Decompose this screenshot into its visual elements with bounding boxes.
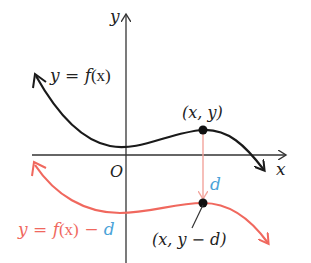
shifted-point-leader (192, 205, 203, 228)
original-point-label: (x, y) (182, 103, 223, 122)
original-curve (36, 76, 264, 170)
shifted-curve-label: y = f(x) − d (17, 219, 115, 239)
shifted-point-label: (x, y − d) (152, 230, 227, 249)
origin-label: O (110, 162, 123, 181)
vertical-shift-diagram: y x O y = f(x) y = f(x) − d (x, y) (x, y… (0, 0, 311, 263)
shift-distance-label: d (210, 174, 221, 194)
original-curve-label: y = f(x) (49, 65, 111, 85)
y-axis-label: y (109, 6, 120, 26)
x-axis-label: x (276, 159, 286, 179)
original-point (199, 126, 208, 135)
